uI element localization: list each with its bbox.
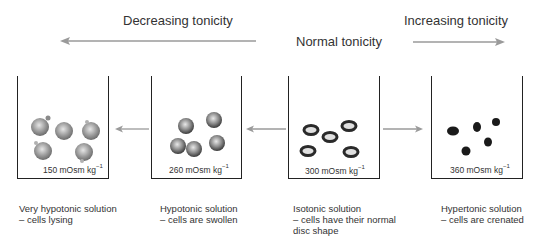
arrow-left-icon: [246, 124, 286, 134]
concentration-label: 360 mOsm kg−1: [450, 165, 510, 175]
decreasing-tonicity-label: Decreasing tonicity: [123, 13, 233, 28]
arrow-left-icon: [115, 124, 150, 134]
beaker-very-hypotonic: 150 mOsm kg−1: [17, 76, 109, 179]
beaker-hypertonic: 360 mOsm kg−1: [431, 76, 523, 179]
concentration-label: 300 mOsm kg−1: [305, 166, 365, 176]
normal-tonicity-label: Normal tonicity: [296, 34, 382, 49]
increasing-tonicity-label: Increasing tonicity: [404, 13, 508, 28]
beaker-isotonic: 300 mOsm kg−1: [288, 76, 380, 179]
crenated-cells-icon: [432, 76, 524, 179]
disc-cells-icon: [289, 76, 381, 179]
concentration-label: 260 mOsm kg−1: [169, 165, 229, 175]
caption-very-hypotonic: Very hypotonic solution – cells lysing: [19, 203, 117, 225]
beaker-hypotonic: 260 mOsm kg−1: [151, 76, 242, 179]
concentration-label: 150 mOsm kg−1: [43, 165, 103, 175]
swollen-cells-icon: [152, 76, 243, 179]
arrow-right-icon: [383, 124, 423, 134]
caption-hypotonic: Hypotonic solution – cells are swollen: [160, 203, 238, 225]
decreasing-arrow-icon: [60, 36, 260, 46]
caption-hypertonic: Hypertonic solution – cells are crenated: [441, 203, 524, 225]
increasing-arrow-icon: [413, 37, 505, 47]
caption-isotonic: Isotonic solution – cells have their nor…: [293, 203, 396, 236]
